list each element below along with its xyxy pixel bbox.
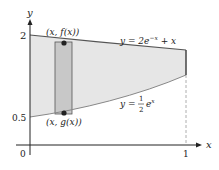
y-axis-label: y (26, 7, 33, 18)
point-f-label: (x, f(x)) (46, 27, 80, 37)
point-g (61, 110, 66, 115)
point-g-label: (x, g(x)) (46, 117, 82, 127)
origin-label: 0 (20, 149, 26, 159)
bottom-curve-label-prefix: y = (119, 99, 136, 109)
top-curve-label: y = 2e−x + x (119, 34, 176, 46)
y-axis-arrow-icon (28, 19, 33, 25)
approximating-strip (55, 42, 72, 114)
x-axis-arrow-icon (196, 143, 202, 148)
bottom-curve-frac-num: 1 (139, 95, 143, 103)
point-f (61, 40, 66, 45)
x-tick-1: 1 (183, 149, 189, 159)
area-between-curves-diagram: y x 0 1 2 0.5 (x, f(x)) (x, g(x)) y = 2e… (0, 0, 219, 170)
x-axis-label: x (206, 139, 212, 150)
y-tick-2: 2 (20, 30, 26, 41)
y-tick-half: 0.5 (12, 113, 27, 123)
bottom-curve-frac-den: 2 (139, 106, 143, 114)
bottom-curve-e: ex (146, 97, 155, 109)
